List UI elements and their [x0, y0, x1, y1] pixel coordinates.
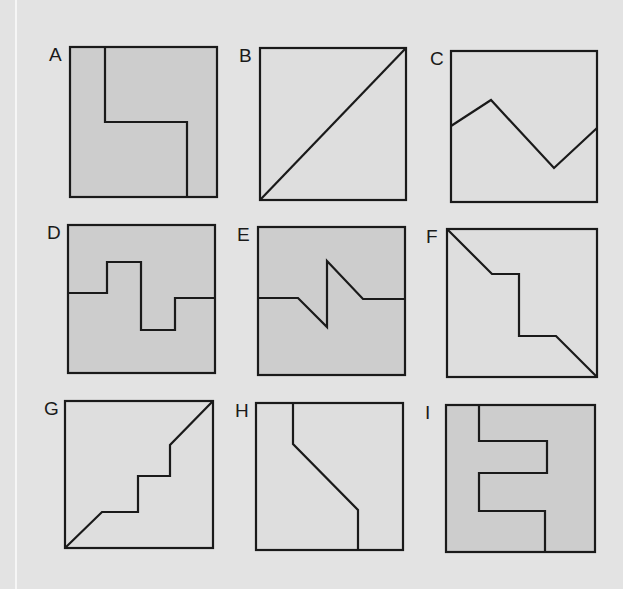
- panel-label: F: [426, 227, 438, 246]
- panel-label: G: [44, 399, 59, 418]
- panel-figure: [258, 227, 405, 375]
- panel-figure: [451, 51, 597, 202]
- panel-label: C: [430, 49, 444, 68]
- panel-border: [256, 403, 403, 550]
- panel-label: A: [49, 45, 62, 64]
- panel-label: H: [235, 401, 249, 420]
- panel-label: I: [425, 403, 430, 422]
- panel-figure: [260, 48, 406, 200]
- cropped-heading: [0, 0, 623, 8]
- panel-figure: [446, 405, 595, 552]
- panel-border: [446, 405, 595, 552]
- panel-border: [451, 51, 597, 202]
- panel-figure: [256, 403, 403, 550]
- panel-figure: [65, 401, 213, 548]
- panel-border: [258, 227, 405, 375]
- panel-figure: [68, 225, 215, 373]
- scan-edge-line: [15, 0, 17, 589]
- panel-label: D: [47, 223, 61, 242]
- panel-figure: [447, 229, 597, 377]
- panel-figure: [70, 47, 217, 197]
- panel-label: B: [239, 46, 252, 65]
- panel-label: E: [237, 225, 250, 244]
